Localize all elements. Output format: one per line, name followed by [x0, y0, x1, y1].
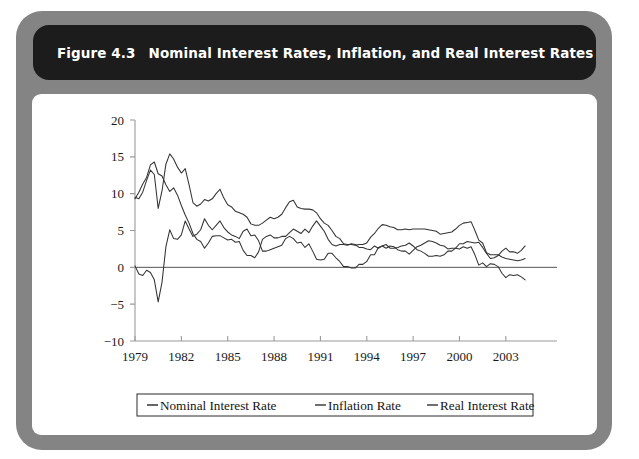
x-axis-tick-labels: 197919821985198819911994199720002003: [122, 349, 519, 364]
series-line-nominal-interest-rate: [135, 154, 525, 261]
y-axis-tick-labels: −10−505101520: [104, 113, 124, 349]
figure-title-bar: Figure 4.3Nominal Interest Rates, Inflat…: [33, 25, 596, 80]
legend-item: Nominal Interest Rate: [147, 398, 277, 413]
line-chart: −10−505101520 19791982198519881991199419…: [32, 94, 597, 435]
chart-panel: −10−505101520 19791982198519881991199419…: [32, 94, 597, 435]
y-axis-tick-label: 15: [111, 149, 124, 164]
x-axis-tick-label: 1979: [122, 349, 148, 364]
legend-item-label: Real Interest Rate: [440, 398, 535, 413]
x-axis-tick-label: 1997: [400, 349, 427, 364]
x-axis-tick-label: 1994: [354, 349, 381, 364]
page-title: Figure 4.3Nominal Interest Rates, Inflat…: [57, 45, 593, 61]
y-axis-tick-label: 0: [118, 260, 125, 275]
chart-axes: [130, 120, 557, 341]
figure-number-label: Figure 4.3: [57, 45, 136, 61]
legend-item-label: Nominal Interest Rate: [160, 398, 277, 413]
y-axis-tick-label: −5: [110, 297, 124, 312]
legend-item-label: Inflation Rate: [328, 398, 401, 413]
x-axis-tick-label: 2003: [493, 349, 519, 364]
figure-title-label: Nominal Interest Rates, Inflation, and R…: [149, 45, 594, 61]
x-axis-tick-label: 1991: [307, 349, 333, 364]
y-axis-tick-label: −10: [104, 334, 124, 349]
legend-item: Inflation Rate: [315, 398, 401, 413]
y-axis-tick-label: 5: [118, 223, 125, 238]
x-axis-tick-label: 1988: [261, 349, 287, 364]
figure-root: Figure 4.3Nominal Interest Rates, Inflat…: [0, 0, 639, 459]
y-axis-tick-label: 10: [111, 186, 124, 201]
y-axis-tick-label: 20: [111, 113, 124, 128]
legend-item: Real Interest Rate: [427, 398, 535, 413]
series-line-real-interest-rate: [135, 219, 525, 302]
chart-series-group: [135, 154, 525, 302]
x-axis-tick-label: 1985: [215, 349, 241, 364]
series-line-inflation-rate: [135, 162, 525, 259]
plot-area: −10−505101520 19791982198519881991199419…: [32, 94, 597, 435]
chart-legend: Nominal Interest RateInflation RateReal …: [137, 394, 535, 416]
x-axis-tick-label: 2000: [446, 349, 472, 364]
x-axis-tick-label: 1982: [168, 349, 194, 364]
